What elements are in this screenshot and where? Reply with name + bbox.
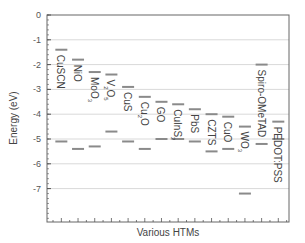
material-label: PEDOT:PSS	[272, 127, 283, 183]
y-axis-title: Energy (eV)	[8, 91, 19, 144]
material-label: NiO	[72, 65, 83, 82]
plot-frame	[47, 15, 289, 222]
y-tick-label: -6	[33, 159, 41, 169]
y-tick-label: 0	[36, 10, 41, 20]
y-tick-label: -4	[33, 109, 41, 119]
material-label: Spiro-OMeTAD	[256, 70, 267, 138]
material-label: WO3	[237, 132, 250, 153]
material-label: Cu2O	[137, 102, 150, 126]
gridlines	[47, 40, 289, 189]
y-tick-label: -1	[33, 35, 41, 45]
material-label: CZTS	[206, 119, 217, 145]
x-axis-title: Various HTMs	[137, 227, 200, 238]
y-tick-label: -3	[33, 84, 41, 94]
material-label: PbS	[189, 114, 200, 133]
material-label: V2O5	[103, 80, 116, 102]
material-label: CuO	[222, 122, 233, 143]
y-tick-label: -2	[33, 60, 41, 70]
material-label: CuS	[122, 92, 133, 112]
x-axis-ticks	[53, 218, 287, 222]
energy-levels	[55, 50, 284, 194]
y-tick-label: -5	[33, 134, 41, 144]
energy-level-chart: 0-1-2-3-4-5-6-7 CuSCNNiOMoO3V2O5CuSCu2OG…	[0, 0, 305, 243]
y-axis-ticks: 0-1-2-3-4-5-6-7	[33, 10, 51, 218]
material-label: CuSCN	[55, 55, 66, 89]
y-tick-label: -7	[33, 184, 41, 194]
material-label: GO	[155, 107, 166, 123]
